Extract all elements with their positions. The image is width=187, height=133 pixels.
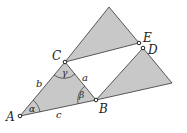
side-a-label: a [82,72,88,83]
point-d [141,46,145,50]
label-c: C [52,49,61,63]
label-a: A [5,110,15,124]
triangle-right [96,48,172,100]
angle-gamma-label: γ [62,68,68,78]
label-d: D [147,43,158,57]
point-e [137,41,141,45]
side-b-label: b [36,78,42,89]
label-e: E [142,31,152,45]
point-a [18,114,22,118]
point-c [63,60,67,64]
side-c-label: c [56,109,62,120]
triangle-upper [65,7,139,62]
angle-alpha-label: α [29,104,35,114]
label-b: B [98,102,108,116]
triangle-diagram: A B C D E a b c α β γ [0,0,187,133]
point-b [94,98,98,102]
angle-beta-label: β [78,90,84,100]
